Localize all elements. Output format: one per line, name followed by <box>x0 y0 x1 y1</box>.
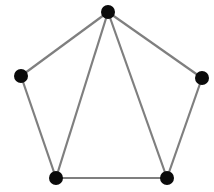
v-bottom-left <box>49 171 63 185</box>
v-top <box>101 5 115 19</box>
graph-edges-group <box>21 12 202 178</box>
e-right-bottom-right <box>167 78 202 178</box>
graph-diagram-canvas <box>0 0 214 192</box>
graph-vertices-group <box>14 5 209 185</box>
v-right <box>195 71 209 85</box>
v-bottom-right <box>160 171 174 185</box>
v-left <box>14 69 28 83</box>
graph-diagram <box>0 0 214 192</box>
e-left-bottom-left <box>21 76 56 178</box>
e-top-bottom-left <box>56 12 108 178</box>
e-top-right <box>108 12 202 78</box>
e-top-left <box>21 12 108 76</box>
e-top-bottom-right <box>108 12 167 178</box>
